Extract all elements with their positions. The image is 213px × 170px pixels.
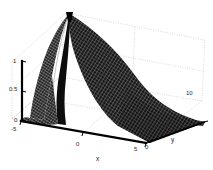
y-tick-label-10: 10 bbox=[186, 90, 193, 96]
x-tick-label-5: 5 bbox=[134, 146, 137, 152]
z-tick-label-0: 0 bbox=[14, 117, 17, 123]
x-tick-label--5: -5 bbox=[11, 126, 16, 132]
x-axis-label: x bbox=[96, 156, 99, 163]
x-tick-label-0: 0 bbox=[76, 141, 79, 147]
y-axis-label: y bbox=[171, 137, 174, 144]
surface-mesh bbox=[20, 12, 205, 143]
z-tick-label-1: 1 bbox=[13, 58, 16, 64]
surface-plot-figure: 1 0.5 0 -5 0 5 0 5 10 x y bbox=[0, 0, 213, 170]
y-tick-label-0: 0 bbox=[145, 144, 148, 150]
y-tick-label-5: 5 bbox=[166, 119, 169, 125]
y-tick-10 bbox=[204, 121, 208, 122]
plot-canvas bbox=[0, 0, 213, 170]
z-tick-label-0-5: 0.5 bbox=[9, 86, 17, 92]
